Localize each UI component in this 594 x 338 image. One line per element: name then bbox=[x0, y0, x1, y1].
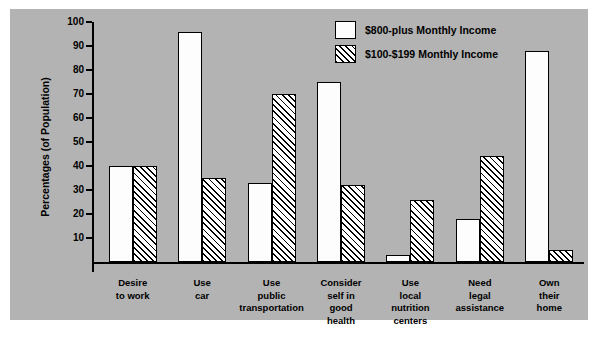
y-axis-tick-label: 30 bbox=[60, 185, 84, 195]
x-axis-category-label: Considerself ingoodhealth bbox=[306, 277, 375, 327]
category-label-line: Use bbox=[237, 277, 306, 290]
y-axis-tick-label: 20 bbox=[60, 209, 84, 219]
category-label-line: Consider bbox=[306, 277, 375, 290]
y-axis-tick-label: 100 bbox=[60, 17, 84, 27]
y-axis-tick bbox=[86, 45, 92, 47]
bar-low-income bbox=[341, 185, 365, 262]
bar-low-income bbox=[202, 178, 226, 262]
bar-high-income bbox=[456, 219, 480, 262]
bar-high-income bbox=[178, 32, 202, 262]
legend-label: $800-plus Monthly Income bbox=[365, 24, 496, 36]
category-label-line: self in bbox=[306, 290, 375, 303]
category-label-line: Own bbox=[515, 277, 584, 290]
category-label-line: public bbox=[237, 290, 306, 303]
x-axis-category-label: Owntheirhome bbox=[515, 277, 584, 315]
y-axis-tick bbox=[86, 93, 92, 95]
y-axis-tick-label: 40 bbox=[60, 161, 84, 171]
bar-low-income bbox=[549, 250, 573, 262]
y-axis-title-wrap: Percentages (of Population) bbox=[38, 22, 52, 272]
y-axis-tick bbox=[86, 165, 92, 167]
y-axis-tick-label: 70 bbox=[60, 89, 84, 99]
y-axis-tick bbox=[86, 21, 92, 23]
category-label-line: Use bbox=[167, 277, 236, 290]
category-label-line: Use bbox=[376, 277, 445, 290]
chart-panel: 100908070605040302010 Percentages (of Po… bbox=[10, 9, 588, 320]
bar-high-income bbox=[248, 183, 272, 262]
category-label-line: health bbox=[306, 315, 375, 328]
y-axis-tick bbox=[86, 237, 92, 239]
category-label-line: centers bbox=[376, 315, 445, 328]
y-axis-tick bbox=[86, 69, 92, 71]
y-axis-tick-label: 90 bbox=[60, 41, 84, 51]
category-label-line: legal bbox=[445, 290, 514, 303]
y-axis-title: Percentages (of Population) bbox=[39, 77, 51, 216]
bar-high-income bbox=[317, 82, 341, 262]
x-axis-category-label: Usecar bbox=[167, 277, 236, 302]
category-label-line: their bbox=[515, 290, 584, 303]
category-label-line: home bbox=[515, 302, 584, 315]
category-label-line: Desire bbox=[98, 277, 167, 290]
y-axis-line bbox=[92, 22, 94, 272]
bar-low-income bbox=[133, 166, 157, 262]
category-label-line: to work bbox=[98, 290, 167, 303]
y-axis-tick bbox=[86, 117, 92, 119]
y-axis-tick bbox=[86, 141, 92, 143]
y-axis-tick-label: 10 bbox=[60, 233, 84, 243]
bar-low-income bbox=[480, 156, 504, 262]
bar-low-income bbox=[272, 94, 296, 262]
y-axis-tick-label: 50 bbox=[60, 137, 84, 147]
x-axis-category-label: Desireto work bbox=[98, 277, 167, 302]
x-axis-baseline bbox=[92, 262, 584, 264]
y-axis-tick-label: 60 bbox=[60, 113, 84, 123]
y-axis-tick bbox=[86, 189, 92, 191]
bar-high-income bbox=[109, 166, 133, 262]
bar-high-income bbox=[525, 51, 549, 262]
plot-area: 100908070605040302010 Percentages (of Po… bbox=[10, 9, 588, 320]
legend-swatch-solid-icon bbox=[335, 21, 356, 39]
category-label-line: Need bbox=[445, 277, 514, 290]
legend-item: $800-plus Monthly Income bbox=[335, 21, 498, 39]
legend-item: $100-$199 Monthly Income bbox=[335, 45, 498, 63]
category-label-line: good bbox=[306, 302, 375, 315]
category-label-line: nutrition bbox=[376, 302, 445, 315]
chart-screenshot: 100908070605040302010 Percentages (of Po… bbox=[0, 0, 594, 338]
category-label-line: transportation bbox=[237, 302, 306, 315]
y-axis-tick bbox=[86, 213, 92, 215]
bar-high-income bbox=[386, 255, 410, 262]
x-axis-category-label: Uselocalnutritioncenters bbox=[376, 277, 445, 327]
chart-legend: $800-plus Monthly Income $100-$199 Month… bbox=[335, 21, 498, 69]
category-label-line: assistance bbox=[445, 302, 514, 315]
legend-swatch-hatch-icon bbox=[335, 45, 356, 63]
x-axis-category-label: Usepublictransportation bbox=[237, 277, 306, 315]
category-label-line: car bbox=[167, 290, 236, 303]
y-axis-tick-label: 80 bbox=[60, 65, 84, 75]
legend-label: $100-$199 Monthly Income bbox=[365, 48, 498, 60]
bar-low-income bbox=[410, 200, 434, 262]
x-axis-category-label: Needlegalassistance bbox=[445, 277, 514, 315]
category-label-line: local bbox=[376, 290, 445, 303]
